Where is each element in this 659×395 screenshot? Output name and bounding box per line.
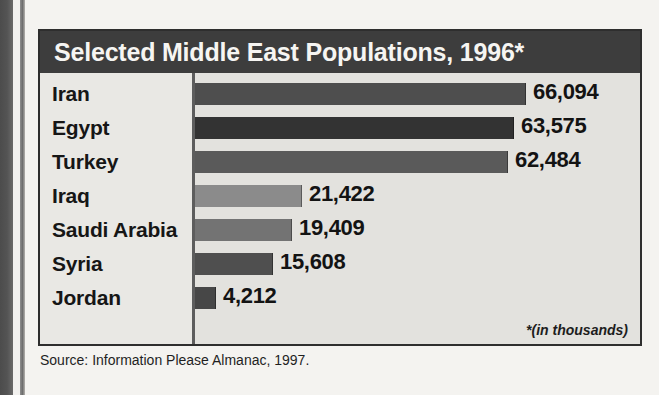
chart-title: Selected Middle East Populations, 1996* xyxy=(54,38,524,67)
bar-row: Jordan4,212 xyxy=(40,281,640,315)
bar-row: Egypt63,575 xyxy=(40,111,640,145)
bar-rect xyxy=(195,253,273,275)
bar-category-label: Iraq xyxy=(52,184,190,208)
bar-row: Turkey62,484 xyxy=(40,145,640,179)
bar-rect xyxy=(195,83,526,105)
bar-category-label: Syria xyxy=(52,252,190,276)
bar-category-label: Jordan xyxy=(52,286,190,310)
bar-value-label: 19,409 xyxy=(299,215,365,241)
chart-plot-area: Iran66,094Egypt63,575Turkey62,484Iraq21,… xyxy=(40,73,640,344)
bar-value-label: 4,212 xyxy=(223,283,277,309)
bar-value-label: 15,608 xyxy=(280,249,346,275)
bar-category-label: Saudi Arabia xyxy=(52,218,190,242)
bar-rect xyxy=(195,185,302,207)
bar-category-label: Iran xyxy=(52,82,190,106)
bar-row: Saudi Arabia19,409 xyxy=(40,213,640,247)
bar-value-label: 66,094 xyxy=(533,79,599,105)
page-gutter-shadow xyxy=(0,0,13,395)
bar-category-label: Egypt xyxy=(52,116,190,140)
chart-figure: Selected Middle East Populations, 1996* … xyxy=(38,29,642,346)
bar-category-label: Turkey xyxy=(52,150,190,174)
chart-source-note: Source: Information Please Almanac, 1997… xyxy=(40,352,309,368)
bar-rect xyxy=(195,151,508,173)
bar-row: Iraq21,422 xyxy=(40,179,640,213)
bar-value-label: 63,575 xyxy=(521,113,587,139)
page-gutter-highlight xyxy=(13,0,20,395)
bar-row: Syria15,608 xyxy=(40,247,640,281)
chart-footnote: *(in thousands) xyxy=(526,322,628,338)
bar-rect xyxy=(195,287,216,309)
bar-rect xyxy=(195,219,292,241)
bar-value-label: 21,422 xyxy=(309,181,375,207)
bar-value-label: 62,484 xyxy=(515,147,581,173)
chart-title-bar: Selected Middle East Populations, 1996* xyxy=(40,31,640,73)
bar-row: Iran66,094 xyxy=(40,77,640,111)
bar-rect xyxy=(195,117,514,139)
